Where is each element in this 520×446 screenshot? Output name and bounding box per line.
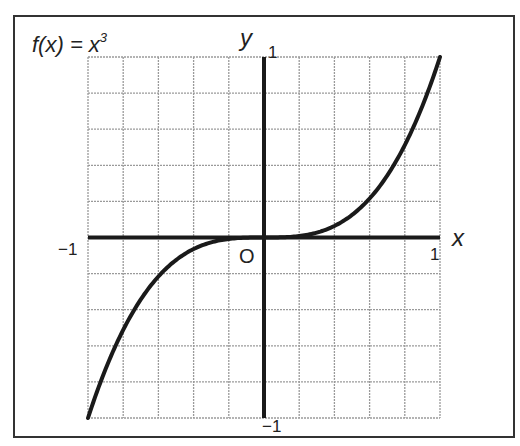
y-max-tick-label: 1 bbox=[268, 43, 277, 62]
y-min-tick-label: −1 bbox=[262, 417, 281, 436]
chart-title: f(x) = x3 bbox=[32, 30, 108, 57]
cubic-function-chart: f(x) = x3 y x 1 −1 −1 1 O bbox=[0, 0, 520, 446]
x-axis-label: x bbox=[451, 224, 465, 251]
x-min-tick-label: −1 bbox=[58, 240, 77, 259]
x-max-tick-label: 1 bbox=[430, 245, 439, 264]
origin-label: O bbox=[239, 245, 255, 267]
y-axis-label: y bbox=[238, 24, 254, 51]
